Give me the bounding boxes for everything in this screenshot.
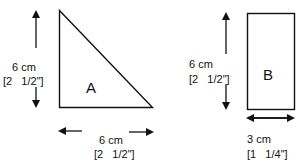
triangle-height-in: [2 1/2"] (3, 75, 44, 87)
rectangle-width-cm: 3 cm (247, 133, 271, 145)
triangle-width-in: [2 1/2"] (94, 148, 135, 160)
rectangle-label: B (263, 69, 273, 81)
rectangle-height-in: [2 1/2"] (189, 73, 230, 85)
rectangle-width-in: [1 1/4"] (247, 148, 288, 160)
diagram: 6 cm [2 1/2"] A 6 cm [2 1/2"] 6 cm [2 1/… (0, 0, 308, 163)
triangle-width-cm: 6 cm (99, 134, 123, 146)
triangle-a (60, 11, 153, 108)
rectangle-b (248, 14, 295, 110)
triangle-height-cm: 6 cm (12, 61, 36, 73)
triangle-label: A (86, 82, 96, 94)
rectangle-height-cm: 6 cm (189, 58, 213, 70)
